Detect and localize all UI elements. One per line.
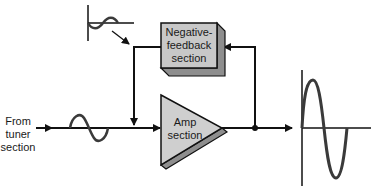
feedback-tap-line	[224, 47, 255, 128]
feedback-waveform-inset	[88, 5, 134, 41]
feedback-label-line-1: Negative-	[161, 26, 217, 39]
feedback-block-label: Negative- feedback section	[161, 26, 217, 65]
input-source-label: From tuner section	[0, 115, 36, 154]
input-label-line-3: section	[0, 141, 36, 154]
feedback-label-line-3: section	[161, 52, 217, 65]
amp-label-line-1: Amp	[162, 116, 208, 129]
input-label-line-2: tuner	[0, 128, 36, 141]
feedback-label-line-2: feedback	[161, 39, 217, 52]
amp-block-label: Amp section	[162, 116, 208, 142]
input-label-line-1: From	[0, 115, 36, 128]
feedback-return-line	[134, 47, 161, 125]
output-waveform	[302, 70, 371, 186]
inset-pointer-arrow	[112, 31, 129, 44]
junction-dot	[252, 125, 258, 131]
amp-label-line-2: section	[162, 129, 208, 142]
